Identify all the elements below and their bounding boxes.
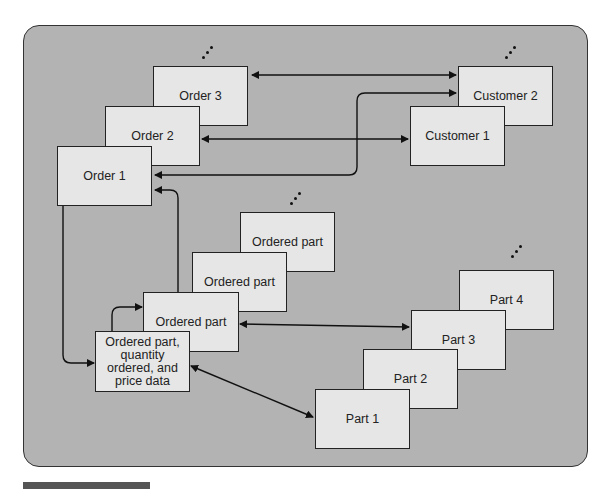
ordered-part-front-label: Ordered part	[156, 316, 227, 329]
customer-1-box: Customer 1	[410, 106, 505, 166]
part-3-label: Part 3	[442, 334, 475, 347]
ordered-part-back-label: Ordered part	[252, 236, 323, 249]
parts-ellipsis-icon	[511, 244, 525, 260]
customer-1-label: Customer 1	[425, 130, 490, 143]
customer-2-label: Customer 2	[473, 90, 538, 103]
order-3-label: Order 3	[179, 90, 221, 103]
part-1-label: Part 1	[346, 413, 379, 426]
link-order1-detail	[63, 206, 94, 363]
link-orderedpart-order1	[155, 190, 178, 292]
ordered-part-detail-label: Ordered part, quantity ordered, and pric…	[99, 336, 186, 388]
order-2-label: Order 2	[131, 130, 173, 143]
order-1-label: Order 1	[83, 170, 125, 183]
link-detail-part1	[191, 366, 313, 417]
part-1-box: Part 1	[315, 389, 410, 449]
order-1-box: Order 1	[57, 146, 152, 206]
orders-ellipsis-icon	[202, 45, 216, 61]
link-orderedpart-part3	[240, 324, 409, 327]
ordered-parts-ellipsis-icon	[290, 191, 304, 207]
footer-rule	[23, 482, 150, 489]
link-detail-orderedpart	[112, 307, 142, 331]
customers-ellipsis-icon	[505, 45, 519, 61]
ordered-part-middle-label: Ordered part	[204, 276, 275, 289]
part-4-label: Part 4	[490, 294, 523, 307]
ordered-part-detail-box: Ordered part, quantity ordered, and pric…	[95, 331, 190, 392]
part-2-label: Part 2	[394, 373, 427, 386]
